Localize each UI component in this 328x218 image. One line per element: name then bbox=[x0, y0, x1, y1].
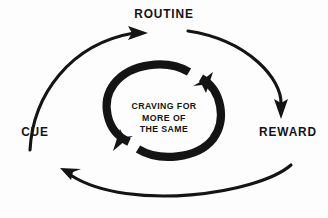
center-text-line-3: THE SAME bbox=[113, 124, 215, 136]
node-label-reward: REWARD bbox=[254, 126, 322, 139]
node-label-cue: CUE bbox=[7, 126, 62, 139]
center-text-line-1: CRAVING FOR bbox=[113, 101, 215, 113]
center-craving-text: CRAVING FOR MORE OF THE SAME bbox=[113, 101, 215, 136]
habit-loop-diagram: ROUTINE CUE REWARD CRAVING FOR MORE OF T… bbox=[0, 0, 328, 218]
node-label-routine: ROUTINE bbox=[8, 8, 320, 21]
outer-arc-routine-to-reward-path bbox=[188, 31, 281, 104]
center-text-line-2: MORE OF bbox=[113, 113, 215, 125]
outer-arrow-reward-to-cue bbox=[60, 165, 291, 196]
outer-arc-reward-to-cue-path bbox=[72, 165, 291, 196]
